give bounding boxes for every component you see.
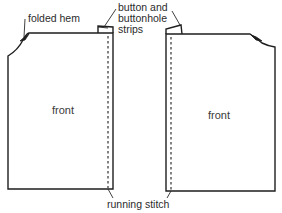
right-front-piece [166,25,275,191]
running-stitch-label: running stitch [107,199,169,210]
running-stitch-leader-right [167,191,171,198]
folded-hem-label: folded hem [28,13,80,24]
leader-lines [24,9,180,198]
left-front-label: front [52,105,74,116]
strips-leader-right [172,11,180,25]
strips-leader-left [104,9,116,27]
folded-hem-leader [24,19,25,37]
running-stitch-leader-left [108,189,113,198]
right-front-label: front [208,110,230,121]
folded-hem-flap-right [251,35,262,41]
strips-label-line3: strips [118,24,143,35]
right-buttonhole-strip [166,25,182,34]
